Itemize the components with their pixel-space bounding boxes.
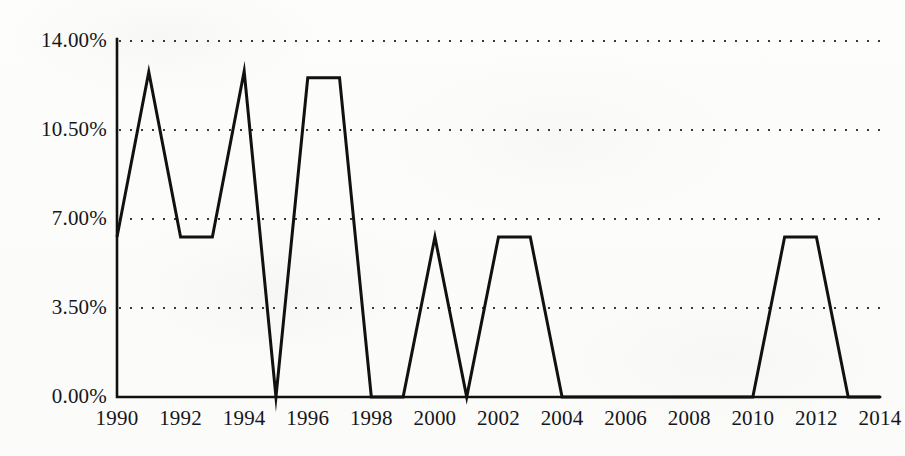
- x-tick-label-1: 1992: [146, 406, 216, 431]
- x-tick-label-9: 2008: [654, 406, 724, 431]
- x-tick-label-10: 2010: [718, 406, 788, 431]
- x-tick-label-5: 2000: [400, 406, 470, 431]
- x-tick-label-12: 2014: [845, 406, 905, 431]
- x-tick-label-11: 2012: [781, 406, 851, 431]
- y-tick-label-2: 7.00%: [52, 206, 107, 231]
- axis-lines: [117, 39, 880, 397]
- x-tick-label-0: 1990: [82, 406, 152, 431]
- y-tick-label-4: 14.00%: [41, 28, 107, 53]
- axes: [117, 39, 880, 397]
- x-tick-label-7: 2004: [527, 406, 597, 431]
- data-series: [117, 71, 880, 397]
- gridlines: [119, 41, 880, 308]
- x-tick-label-4: 1998: [336, 406, 406, 431]
- x-tick-label-6: 2002: [464, 406, 534, 431]
- x-tick-label-3: 1996: [273, 406, 343, 431]
- line-chart-plot: [0, 0, 905, 456]
- series-line: [117, 71, 880, 397]
- y-tick-label-1: 3.50%: [52, 295, 107, 320]
- x-tick-label-8: 2006: [591, 406, 661, 431]
- x-tick-label-2: 1994: [209, 406, 279, 431]
- y-tick-label-3: 10.50%: [41, 117, 107, 142]
- chart-container: 0.00%3.50%7.00%10.50%14.00% 199019921994…: [0, 0, 905, 456]
